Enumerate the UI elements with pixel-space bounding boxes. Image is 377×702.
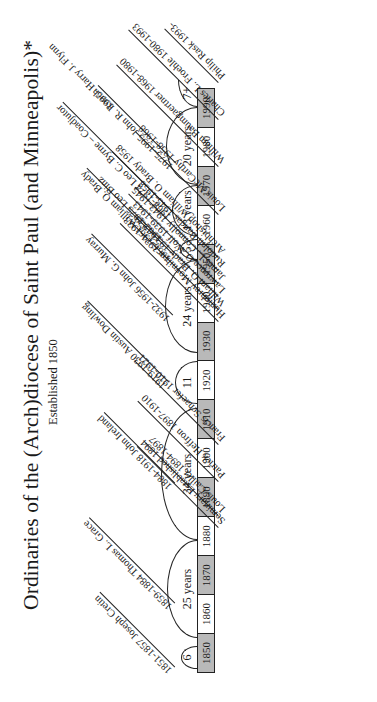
tenure-label: 6 [180, 655, 195, 661]
timeline-diagram: Ordinaries of the (Arch)diocese of Saint… [0, 0, 377, 702]
decade-cell: 1850 [198, 633, 214, 672]
tenure-label: 11 [180, 377, 195, 389]
tenure-arc: 6 [181, 646, 197, 669]
decade-cell: 1870 [198, 555, 214, 594]
decade-cell: 1860 [198, 594, 214, 633]
decade-bar: 1850 1860 1870 1880 1890 1900 1910 1920 … [197, 88, 215, 673]
diagram-subtitle: Established 1850 [46, 62, 61, 702]
tenure-label: 25 years [180, 569, 195, 609]
diagram-title: Ordinaries of the (Arch)diocese of Saint… [19, 40, 44, 610]
tenure-arc: 25 years [167, 540, 197, 638]
decade-cell: 1930 [198, 322, 214, 361]
decade-cell: 1920 [198, 361, 214, 400]
